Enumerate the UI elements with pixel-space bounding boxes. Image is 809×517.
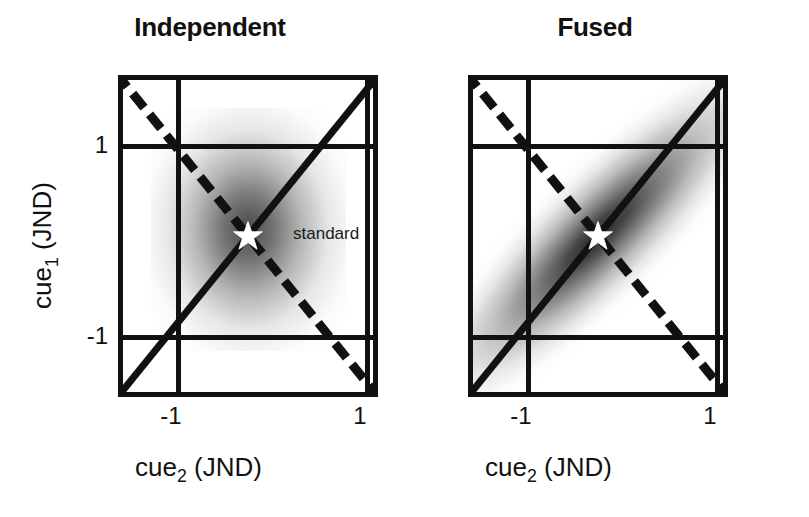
x-axis-label-unit: (JND) [187,452,262,482]
ytick-label-neg1: -1 [68,322,108,350]
panel-title-independent: Independent [8,12,412,43]
xtick-label-neg1: -1 [149,402,193,430]
y-axis-label-sub: 1 [42,257,62,267]
gridline-x-pos1-fused [715,80,720,392]
y-axis-label-main: cue [27,267,57,309]
standard-star-marker-fused [583,221,613,251]
gridline-x-neg1 [176,80,181,392]
xtick-label-pos1: 1 [338,402,382,430]
x-axis-label-main-fused: cue [485,452,527,482]
x-axis-label-unit-fused: (JND) [537,452,612,482]
panel-fused: Fused perceptual metamers -1 1 [405,0,809,517]
y-axis-label-left: cue1 (JND) [27,151,62,341]
plot-area-fused [468,75,728,397]
standard-star-marker [233,221,263,251]
panel-independent: Independent standard 1 -1 -1 1 [0,0,404,517]
gridline-y-pos1-fused [473,144,723,149]
annotation-standard: standard [293,224,359,244]
plot-inner-fused [473,80,723,392]
x-axis-label-sub-fused: 2 [527,466,537,486]
x-axis-label-left: cue2 (JND) [135,452,262,487]
panel-title-fused: Fused [393,12,797,43]
x-axis-label-main: cue [135,452,177,482]
ytick-label-pos1: 1 [68,131,108,159]
x-axis-label-sub: 2 [177,466,187,486]
y-axis-label-unit: (JND) [27,182,57,257]
xtick-label-neg1-fused: -1 [499,402,543,430]
x-axis-label-right: cue2 (JND) [485,452,612,487]
xtick-label-pos1-fused: 1 [688,402,732,430]
gridline-x-neg1-fused [526,80,531,392]
figure-root: Independent standard 1 -1 -1 1 [0,0,809,517]
gridline-x-pos1 [365,80,370,392]
gridline-y-pos1 [123,144,373,149]
